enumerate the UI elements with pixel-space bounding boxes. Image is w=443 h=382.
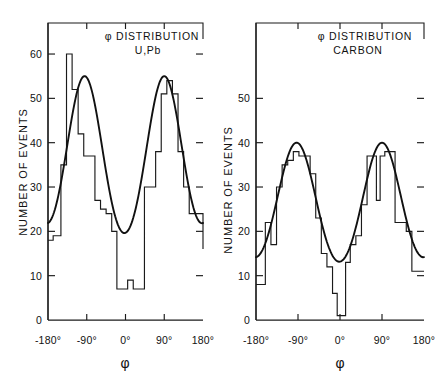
y-tick-label: 40 [238,137,250,149]
x-axis-title: φ [335,355,344,371]
frame-box [256,23,424,320]
y-tick-label: 20 [238,225,250,237]
plot-title: φ DISTRIBUTION [318,30,412,42]
y-tick-label: 50 [238,92,250,104]
y-tick-label: 0 [244,314,250,326]
y-tick-label: 30 [238,181,250,193]
plot-panel-carbon: -180°-90°0°90°180°01020304050φ DISTRIBUT… [222,23,435,371]
x-tick-label: 90° [374,334,390,346]
fit-curve [48,76,203,233]
y-axis-title: NUMBER OF EVENTS [17,108,29,235]
x-tick-label: 180° [413,334,436,346]
plot-subtitle: CARBON [333,44,382,56]
phi-distribution-figure: -180°-90°0°90°180°0102030405060φ DISTRIB… [0,0,443,382]
plot-frame [256,23,424,320]
y-tick-label: 30 [30,181,42,193]
plot-frame [48,23,203,320]
plot-title: φ DISTRIBUTION [105,30,199,42]
x-tick-label: 180° [192,334,215,346]
frame-box [48,23,203,320]
y-tick-label: 10 [30,270,42,282]
y-tick-label: 0 [36,314,42,326]
x-tick-label: 0° [120,334,130,346]
x-tick-label: 0° [335,334,345,346]
y-axis-title: NUMBER OF EVENTS [222,126,234,253]
plot-subtitle: U,Pb [135,44,161,56]
x-ticks: -180°-90°0°90°180° [243,23,435,346]
x-tick-label: -90° [77,334,97,346]
figure-canvas: -180°-90°0°90°180°0102030405060φ DISTRIB… [0,0,443,382]
plot-panel-u-pb: -180°-90°0°90°180°0102030405060φ DISTRIB… [17,23,214,371]
x-tick-label: 90° [156,334,172,346]
y-ticks: 01020304050 [238,92,424,326]
x-tick-label: -180° [243,334,269,346]
y-tick-label: 60 [30,48,42,60]
x-tick-label: -90° [288,334,308,346]
y-tick-label: 20 [30,225,42,237]
y-tick-label: 50 [30,92,42,104]
histogram-steps [256,152,424,316]
y-tick-label: 40 [30,137,42,149]
fit-curve [256,143,424,262]
histogram-steps [48,54,203,289]
x-tick-label: -180° [35,334,61,346]
y-tick-label: 10 [238,270,250,282]
x-axis-title: φ [120,355,129,371]
